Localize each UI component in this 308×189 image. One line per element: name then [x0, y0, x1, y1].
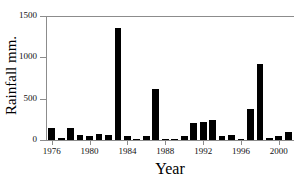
bar: [48, 128, 55, 140]
x-axis-line: [46, 140, 294, 141]
y-axis-tick-mark: [40, 140, 46, 141]
bar: [266, 138, 273, 140]
bar: [133, 139, 140, 140]
bar: [171, 139, 178, 140]
y-axis-tick-label: 500: [0, 93, 37, 104]
bar: [67, 128, 74, 140]
bar: [200, 122, 207, 140]
bar: [105, 135, 112, 140]
bar: [238, 139, 245, 140]
bar: [162, 139, 169, 140]
y-axis-title: Rainfall mm.: [0, 0, 24, 150]
bar: [228, 135, 235, 140]
x-axis-tick-mark: [203, 140, 204, 145]
bar: [190, 123, 197, 140]
bar: [86, 136, 93, 140]
bar: [285, 132, 292, 140]
x-axis-tick-label: 1996: [227, 146, 255, 157]
bar: [77, 135, 84, 140]
x-axis-tick-mark: [241, 140, 242, 145]
x-axis-tick-label: 1980: [76, 146, 104, 157]
bar: [96, 134, 103, 140]
y-axis-tick-label: 1500: [0, 10, 37, 21]
x-axis-tick-label: 1976: [38, 146, 66, 157]
x-axis-tick-label: 1992: [189, 146, 217, 157]
bar: [181, 136, 188, 140]
bar: [219, 136, 226, 140]
bar: [58, 138, 65, 140]
x-axis-tick-mark: [165, 140, 166, 145]
bar: [143, 136, 150, 140]
bar: [247, 109, 254, 140]
x-axis-tick-label: 1984: [113, 146, 141, 157]
x-axis-tick-mark: [52, 140, 53, 145]
bar: [275, 136, 282, 140]
bar: [115, 28, 122, 140]
x-axis-title: Year: [46, 160, 294, 178]
x-axis-tick-mark: [90, 140, 91, 145]
bar: [124, 136, 131, 140]
rainfall-bar-chart: Rainfall mm. 050010001500 19761980198419…: [0, 0, 308, 189]
bar: [257, 64, 264, 140]
x-axis-tick-label: 2000: [265, 146, 293, 157]
y-axis-tick-label: 0: [0, 134, 37, 145]
x-axis-tick-mark: [127, 140, 128, 145]
y-axis-tick-label: 1000: [0, 51, 37, 62]
x-axis-tick-label: 1988: [151, 146, 179, 157]
bar-series: [46, 16, 294, 140]
bar: [209, 120, 216, 140]
bar: [152, 89, 159, 140]
x-axis-tick-mark: [279, 140, 280, 145]
